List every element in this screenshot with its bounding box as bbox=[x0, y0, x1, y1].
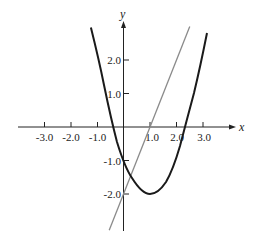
y-tick-label: 1.0 bbox=[107, 88, 121, 100]
x-axis-arrow-icon bbox=[229, 125, 236, 130]
y-axis-label: y bbox=[119, 7, 126, 21]
x-tick-label: -2.0 bbox=[62, 131, 80, 143]
parabola-series bbox=[91, 28, 207, 195]
y-tick-label: -2.0 bbox=[104, 188, 122, 200]
x-tick-label: 3.0 bbox=[197, 131, 211, 143]
y-tick-label: -1.0 bbox=[104, 155, 122, 167]
x-tick-label: -3.0 bbox=[36, 131, 54, 143]
chart: x y -3.0 -2.0 -1.0 1.0 2.0 3.0 2.0 1.0 -… bbox=[0, 0, 253, 246]
line-series bbox=[109, 27, 190, 231]
y-axis-arrow-icon bbox=[121, 21, 126, 28]
x-tick-label: -1.0 bbox=[89, 131, 107, 143]
y-tick-label: 2.0 bbox=[107, 54, 121, 66]
x-axis-label: x bbox=[238, 120, 245, 134]
